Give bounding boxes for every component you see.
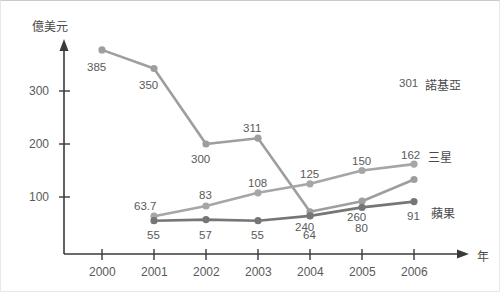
data-label-apple-2006: 91 (407, 210, 420, 222)
series-line-apple (150, 198, 417, 224)
data-label-nokia-2001: 350 (139, 79, 158, 91)
x-tick-label-2002: 2002 (193, 265, 220, 279)
x-tick-label-2001: 2001 (141, 265, 168, 279)
data-point-apple-2006 (410, 198, 417, 205)
data-point-nokia-2000 (98, 46, 105, 53)
data-point-apple-2004 (306, 212, 313, 219)
data-point-nokia-2005 (358, 198, 365, 205)
data-point-nokia-2003 (254, 135, 261, 142)
data-point-nokia-2006 (410, 176, 417, 183)
data-label-apple-2002: 57 (199, 229, 212, 241)
y-tick-label-200: 200 (29, 137, 49, 151)
series-label-samsung: 三星 (428, 148, 452, 165)
data-label-samsung-2001: 63.7 (134, 200, 156, 212)
y-axis (59, 39, 70, 254)
data-point-samsung-2002 (202, 202, 209, 209)
x-tick-label-2000: 2000 (89, 265, 116, 279)
data-label-nokia-2000: 385 (87, 61, 106, 73)
data-label-samsung-2004: 125 (300, 168, 319, 180)
data-label-nokia-2003: 311 (243, 122, 261, 134)
data-point-apple-2003 (254, 217, 261, 224)
x-tick-label-2006: 2006 (401, 265, 428, 279)
data-label-samsung-2006: 162 (401, 149, 420, 161)
y-axis-title: 億美元 (32, 17, 68, 34)
data-label-nokia-2006: 301 (399, 77, 418, 89)
y-tick-label-100: 100 (29, 190, 49, 204)
data-point-apple-2002 (202, 216, 209, 223)
data-label-samsung-2003: 108 (248, 177, 267, 189)
data-point-nokia-2002 (202, 140, 209, 147)
data-point-nokia-2001 (150, 65, 157, 72)
data-point-samsung-2004 (306, 180, 313, 187)
x-tick-label-2003: 2003 (245, 265, 272, 279)
data-point-samsung-2005 (358, 167, 365, 174)
x-tick-label-2004: 2004 (297, 265, 324, 279)
data-point-samsung-2006 (410, 161, 417, 168)
data-label-apple-2003: 55 (251, 229, 264, 241)
data-point-apple-2005 (358, 204, 365, 211)
line-chart-canvas (1, 1, 500, 292)
data-point-samsung-2003 (254, 189, 261, 196)
y-tick-label-300: 300 (29, 84, 49, 98)
data-label-samsung-2002: 83 (199, 189, 212, 201)
data-label-samsung-2005: 150 (352, 155, 371, 167)
series-label-nokia: 諾基亞 (425, 76, 461, 93)
data-label-apple-2005: 80 (355, 222, 368, 234)
series-line-samsung (150, 161, 417, 237)
data-point-apple-2001 (150, 217, 157, 224)
data-label-apple-2001: 55 (147, 229, 160, 241)
series-label-apple: 蘋果 (431, 204, 455, 221)
x-axis-title: 年 (477, 247, 489, 264)
chart-frame: 億美元 年 300 200 100 2000 2001 2002 2003 20… (0, 0, 500, 292)
x-tick-label-2005: 2005 (349, 265, 376, 279)
x-axis (64, 249, 469, 260)
data-label-apple-2004: 64 (303, 229, 316, 241)
data-label-nokia-2002: 300 (191, 153, 210, 165)
